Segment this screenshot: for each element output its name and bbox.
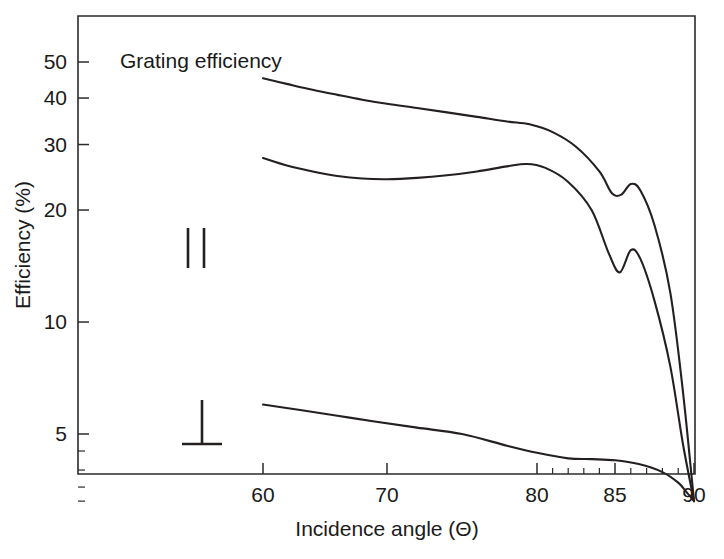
x-tick-label-80: 80 — [525, 483, 548, 506]
y-tick-label-20: 20 — [44, 198, 67, 221]
y-tick-label-5: 5 — [55, 422, 67, 445]
x-tick-label-70: 70 — [375, 483, 398, 506]
x-tick-label-85: 85 — [603, 483, 626, 506]
y-axis-title: Efficiency (%) — [11, 181, 34, 309]
y-tick-label-40: 40 — [44, 86, 67, 109]
chart-title-annotation: Grating efficiency — [120, 49, 282, 72]
grating-efficiency-plot: 50403020105 6070808590 Incidence angle (… — [0, 0, 724, 559]
plot-background — [0, 0, 724, 559]
chart-figure: 50403020105 6070808590 Incidence angle (… — [0, 0, 724, 559]
x-tick-label-60: 60 — [251, 483, 274, 506]
y-tick-label-10: 10 — [44, 310, 67, 333]
y-tick-label-30: 30 — [44, 133, 67, 156]
x-axis-title: Incidence angle (Θ) — [295, 517, 478, 540]
y-tick-label-50: 50 — [44, 50, 67, 73]
